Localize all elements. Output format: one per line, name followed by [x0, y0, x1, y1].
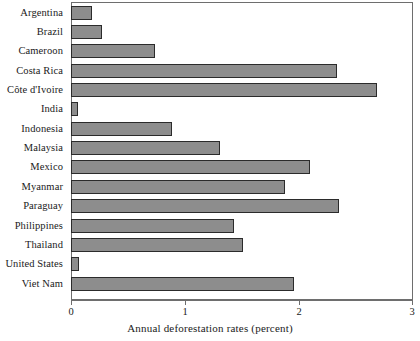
bar: [71, 180, 285, 194]
deforestation-bar-chart: ArgentinaBrazilCameroonCosta RicaCôte d'…: [0, 0, 420, 341]
x-axis-tick: [412, 300, 413, 305]
bar: [71, 199, 339, 213]
x-axis-tick-label: 0: [68, 306, 73, 318]
x-axis-tick-label: 2: [296, 306, 301, 318]
bar: [71, 277, 294, 291]
category-axis: ArgentinaBrazilCameroonCosta RicaCôte d'…: [0, 3, 67, 300]
bar: [71, 257, 79, 271]
bar: [71, 141, 220, 155]
bar: [71, 6, 92, 20]
category-label: Myanmar: [0, 180, 63, 194]
category-label: Malaysia: [0, 141, 63, 155]
category-label: Costa Rica: [0, 64, 63, 78]
bar: [71, 219, 234, 233]
x-axis-tick: [299, 300, 300, 305]
category-label: Argentina: [0, 6, 63, 20]
bar: [71, 64, 337, 78]
category-label: Thailand: [0, 238, 63, 252]
category-label: United States: [0, 257, 63, 271]
category-label: Mexico: [0, 160, 63, 174]
bar: [71, 238, 243, 252]
category-label: Cameroon: [0, 44, 63, 58]
category-label: Philippines: [0, 219, 63, 233]
x-axis-tick-label: 1: [182, 306, 187, 318]
category-label: Paraguay: [0, 199, 63, 213]
bar: [71, 25, 102, 39]
category-label: Brazil: [0, 25, 63, 39]
bar: [71, 44, 155, 58]
bar: [71, 83, 377, 97]
category-label: Viet Nam: [0, 277, 63, 291]
x-axis-line: [71, 300, 413, 301]
category-label: Côte d'Ivoire: [0, 83, 63, 97]
x-axis-tick: [71, 300, 72, 305]
x-axis-tick: [185, 300, 186, 305]
bars-layer: [71, 2, 413, 300]
bar: [71, 122, 172, 136]
x-axis-tick-label: 3: [409, 306, 414, 318]
bar: [71, 102, 78, 116]
bar: [71, 160, 310, 174]
category-label: Indonesia: [0, 122, 63, 136]
category-label: India: [0, 102, 63, 116]
x-axis-title: Annual deforestation rates (percent): [0, 322, 420, 334]
